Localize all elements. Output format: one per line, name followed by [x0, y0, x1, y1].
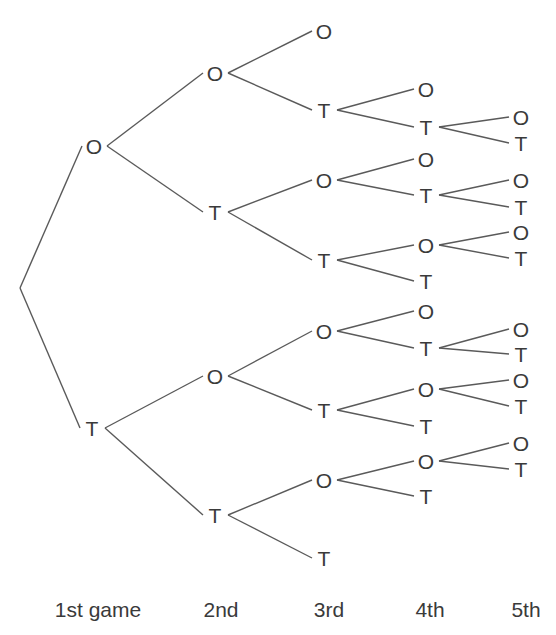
outcome-node-t: T — [515, 343, 528, 366]
tree-edge — [337, 410, 414, 426]
tree-edge — [107, 73, 203, 146]
outcome-node-o: O — [418, 450, 434, 473]
outcome-node-t: T — [420, 485, 433, 508]
tree-edge — [439, 127, 509, 143]
tree-edge — [228, 31, 312, 73]
outcome-node-o: O — [513, 106, 529, 129]
tree-edge — [439, 195, 509, 207]
outcome-node-t: T — [209, 504, 222, 527]
outcome-node-o: O — [316, 169, 332, 192]
tree-edge — [439, 443, 509, 461]
tree-edge — [228, 212, 312, 260]
tree-edge — [337, 110, 414, 127]
tree-edge — [337, 480, 414, 496]
outcome-node-o: O — [513, 369, 529, 392]
tree-edge — [439, 180, 509, 195]
outcome-node-t: T — [515, 132, 528, 155]
tree-edge — [439, 117, 509, 127]
round-label: 1st game — [55, 598, 141, 621]
round-label: 4th — [415, 598, 444, 621]
outcome-node-o: O — [316, 469, 332, 492]
tree-edge — [439, 245, 509, 258]
outcome-node-o: O — [513, 432, 529, 455]
tree-edge — [439, 329, 509, 348]
outcome-node-t: T — [420, 270, 433, 293]
outcome-node-o: O — [418, 234, 434, 257]
tree-edge — [439, 389, 509, 406]
outcome-node-t: T — [515, 247, 528, 270]
outcome-node-o: O — [418, 378, 434, 401]
outcome-node-o: O — [316, 320, 332, 343]
tree-edge — [337, 245, 414, 260]
tree-edges — [20, 31, 509, 558]
tree-edge — [228, 515, 312, 558]
outcome-node-t: T — [318, 399, 331, 422]
outcome-node-t: T — [420, 116, 433, 139]
outcome-node-o: O — [513, 169, 529, 192]
tree-nodes: OTOTOTOTOTOTOTOTOTOTOTOTOTOTOTOTOTOTOT — [86, 20, 530, 570]
outcome-node-o: O — [418, 148, 434, 171]
tree-edge — [228, 73, 312, 110]
round-label: 3rd — [314, 598, 344, 621]
tree-edge — [228, 180, 312, 212]
tree-edge — [337, 89, 414, 110]
tree-edge — [439, 380, 509, 389]
outcome-node-o: O — [316, 20, 332, 43]
outcome-node-t: T — [420, 337, 433, 360]
tree-edge — [107, 146, 203, 212]
tree-edge — [105, 428, 203, 515]
tree-svg: OTOTOTOTOTOTOTOTOTOTOTOTOTOTOTOTOTOTOT 1… — [0, 0, 556, 635]
outcome-node-t: T — [318, 249, 331, 272]
tree-edge — [337, 159, 414, 180]
tree-edge — [20, 146, 82, 288]
outcome-node-t: T — [515, 196, 528, 219]
tree-edge — [228, 480, 312, 515]
tree-edge — [337, 461, 414, 480]
tree-edge — [228, 376, 312, 410]
round-label: 5th — [511, 598, 540, 621]
tree-edge — [439, 232, 509, 245]
tree-edge — [337, 180, 414, 195]
outcome-node-t: T — [318, 99, 331, 122]
outcome-node-t: T — [420, 415, 433, 438]
outcome-node-o: O — [513, 221, 529, 244]
outcome-node-t: T — [209, 201, 222, 224]
round-label: 2nd — [203, 598, 238, 621]
tree-edge — [105, 376, 203, 428]
game-outcome-tree-diagram: OTOTOTOTOTOTOTOTOTOTOTOTOTOTOTOTOTOTOT 1… — [0, 0, 556, 635]
outcome-node-t: T — [515, 395, 528, 418]
outcome-node-o: O — [418, 300, 434, 323]
tree-edge — [20, 288, 80, 428]
tree-edge — [337, 389, 414, 410]
tree-edge — [337, 331, 414, 348]
outcome-node-o: O — [418, 78, 434, 101]
tree-edge — [439, 461, 509, 469]
tree-edge — [337, 311, 414, 331]
game-round-labels: 1st game2nd3rd4th5th — [55, 598, 541, 621]
outcome-node-o: O — [86, 135, 102, 158]
outcome-node-o: O — [513, 318, 529, 341]
outcome-node-o: O — [207, 62, 223, 85]
outcome-node-t: T — [318, 547, 331, 570]
outcome-node-t: T — [420, 184, 433, 207]
outcome-node-t: T — [86, 417, 99, 440]
outcome-node-o: O — [207, 365, 223, 388]
outcome-node-t: T — [515, 458, 528, 481]
tree-edge — [439, 348, 509, 354]
tree-edge — [228, 331, 312, 376]
tree-edge — [337, 260, 414, 281]
